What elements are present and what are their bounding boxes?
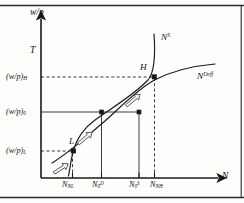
curve-sup-labor-supply: S [167,32,170,38]
xtick-sub-N-NH: NH [155,183,162,189]
xtick-label-N-0-S: N0S [129,181,140,190]
ytick-base-wp-0: (w/p) [6,107,23,116]
ytick-base-wp-H: (w/p) [6,72,23,81]
xtick-sup-N-0-S: S [137,180,140,186]
ytick-sub-wp-L: L [23,149,26,155]
ytick-label-wp-0: (w/p)0 [6,108,26,116]
figure-container: w/p T N (w/p)H (w/p)0 (w/p)L NNL N0D N0S… [0,0,244,203]
marker-point-N0S [137,110,142,115]
marker-point-L [71,148,76,153]
arrow-upper-icon [124,91,142,108]
xtick-sub-N-NL: NL [67,183,73,189]
point-label-H: H [140,63,147,72]
ytick-sub-wp-0: 0 [23,110,26,116]
marker-point-H [152,74,157,79]
xtick-label-N-NL: NNL [62,181,74,189]
x-axis-label: N [222,172,228,182]
ytick-sub-wp-H: H [23,75,27,81]
curve-labor-demand-effective [52,64,215,163]
labor-market-diagram [0,0,244,203]
curve-label-labor-demand-effective: NDeff [197,72,213,81]
point-label-L: L [69,137,74,146]
ytick-label-wp-L: (w/p)L [6,147,26,155]
curve-sup-labor-demand-eff: Deff [203,71,213,77]
y-axis-label: w/p [30,8,44,18]
curve-labor-supply [69,34,155,176]
curve-label-labor-supply: NS [161,33,170,42]
arrow-lower-left-icon [52,161,70,176]
ytick-label-wp-H: (w/p)H [6,73,27,81]
xtick-sup-N-0-D: D [100,180,104,186]
temperature-label: T [30,46,35,56]
xtick-label-N-0-D: N0D [92,181,104,190]
xtick-label-N-NH: NNH [150,181,163,189]
marker-point-N0D [99,110,104,115]
ytick-base-wp-L: (w/p) [6,146,23,155]
